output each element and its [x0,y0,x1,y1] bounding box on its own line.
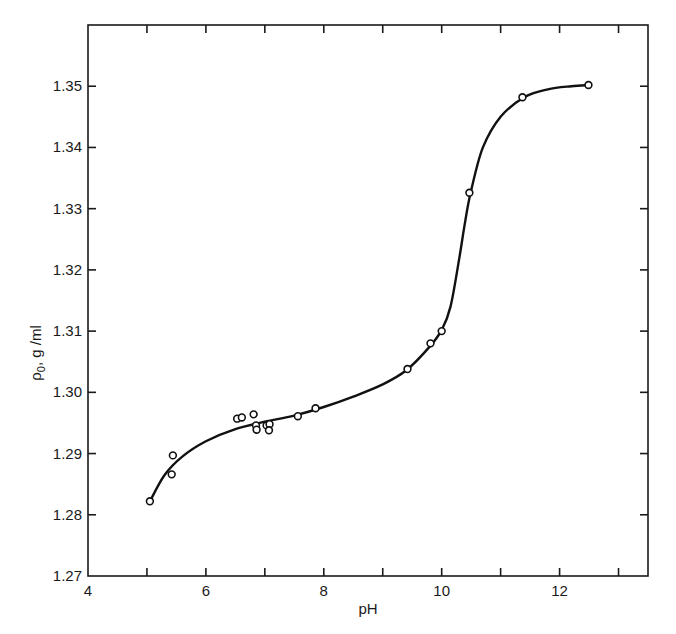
data-point [585,82,592,89]
data-point [146,498,153,505]
density-vs-ph-chart: 4681012 1.271.281.291.301.311.321.331.34… [0,0,676,634]
y-axis-label: ρ0, g /ml [27,325,47,381]
data-point [253,426,260,433]
y-tick-label: 1.32 [53,261,82,278]
data-point [466,189,473,196]
data-point [438,328,445,335]
x-tick-label: 8 [320,582,328,599]
x-tick-label: 6 [202,582,210,599]
y-axis-label-rho: ρ [27,372,44,381]
y-tick-label: 1.35 [53,77,82,94]
y-tick-label: 1.34 [53,138,82,155]
plot-frame [88,25,648,576]
y-axis-label-units: , g /ml [27,325,44,366]
data-point [404,366,411,373]
y-tick-label: 1.28 [53,506,82,523]
data-points [146,82,591,505]
x-tick-label: 12 [551,582,568,599]
svg-text:ρ0, g /ml: ρ0, g /ml [27,325,47,381]
data-point [168,471,175,478]
x-tick-labels: 4681012 [84,582,568,599]
y-tick-labels: 1.271.281.291.301.311.321.331.341.35 [53,77,82,584]
data-point [250,411,257,418]
data-point [312,405,319,412]
x-tick-label: 4 [84,582,92,599]
x-tick-label: 10 [433,582,450,599]
data-point [294,413,301,420]
data-point [427,340,434,347]
y-tick-label: 1.31 [53,322,82,339]
y-tick-label: 1.33 [53,200,82,217]
data-point [169,452,176,459]
x-axis-label: pH [358,600,377,617]
data-point [238,414,245,421]
axis-ticks [88,25,648,576]
data-point [519,94,526,101]
plot-border [88,25,648,576]
y-tick-label: 1.29 [53,445,82,462]
data-point [266,427,273,434]
fitted-curve [150,85,589,501]
y-tick-label: 1.30 [53,383,82,400]
y-tick-label: 1.27 [53,567,82,584]
